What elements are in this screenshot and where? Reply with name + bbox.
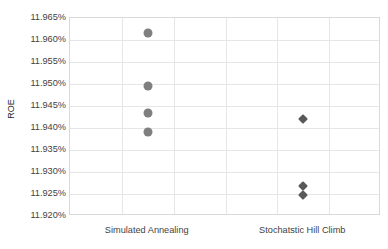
- gridline-horizontal: [70, 40, 379, 41]
- x-axis-tick-label: Stochatstic Hill Climb: [259, 225, 345, 235]
- gridline-vertical: [226, 18, 227, 214]
- y-axis-tick-label: 11.955%: [2, 56, 66, 66]
- gridline-vertical: [329, 18, 330, 214]
- gridline-vertical: [174, 18, 175, 214]
- data-point-circle: [143, 108, 152, 117]
- gridline-horizontal: [70, 62, 379, 63]
- gridline-horizontal: [70, 172, 379, 173]
- y-axis-tick-label: 11.965%: [2, 12, 66, 22]
- y-axis-tick-label: 11.940%: [2, 122, 66, 132]
- y-axis-tick-label: 11.960%: [2, 34, 66, 44]
- y-axis-tick-labels: 11.920%11.925%11.930%11.935%11.940%11.94…: [0, 0, 66, 249]
- y-axis-tick-label: 11.935%: [2, 144, 66, 154]
- data-point-circle: [143, 128, 152, 137]
- y-axis-tick-label: 11.945%: [2, 100, 66, 110]
- gridline-vertical: [122, 18, 123, 214]
- y-axis-tick-label: 11.930%: [2, 166, 66, 176]
- gridline-horizontal: [70, 150, 379, 151]
- gridline-horizontal: [70, 194, 379, 195]
- data-point-circle: [143, 82, 152, 91]
- gridline-horizontal: [70, 128, 379, 129]
- gridline-horizontal: [70, 84, 379, 85]
- data-point-diamond: [298, 190, 308, 200]
- y-axis-tick-label: 11.925%: [2, 188, 66, 198]
- data-point-diamond: [298, 114, 308, 124]
- x-axis-tick-label: Simulated Annealing: [105, 225, 189, 235]
- gridline-vertical: [277, 18, 278, 214]
- plot-area: [69, 17, 380, 215]
- y-axis-tick-label: 11.920%: [2, 210, 66, 220]
- gridline-horizontal: [70, 106, 379, 107]
- data-point-circle: [143, 29, 152, 38]
- roe-scatter-chart: ROE 11.920%11.925%11.930%11.935%11.940%1…: [0, 0, 388, 249]
- y-axis-tick-label: 11.950%: [2, 78, 66, 88]
